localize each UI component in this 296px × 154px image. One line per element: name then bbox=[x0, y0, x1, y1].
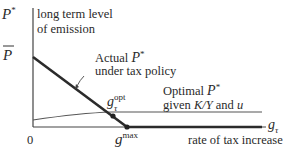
optimal-curve-label-line1: Optimal P* bbox=[163, 84, 220, 98]
y-axis-label-line2: of emission bbox=[37, 22, 95, 36]
origin-label: 0 bbox=[27, 133, 33, 147]
x-axis-symbol: gτ bbox=[268, 118, 278, 132]
actual-curve-label-line2: under tax policy bbox=[95, 64, 176, 78]
actual-curve-label-line1: Actual P* bbox=[95, 51, 145, 65]
annotation-arrow bbox=[77, 76, 84, 86]
g-max-label: gmax bbox=[115, 132, 138, 146]
optimal-curve-label-line2: given K/Y and u bbox=[163, 98, 243, 112]
p-bar-tick-label: P bbox=[3, 48, 12, 62]
y-axis-symbol: P* bbox=[2, 7, 16, 21]
g-opt-label: g opt τ bbox=[107, 95, 128, 109]
emission-tax-diagram: P* long term level of emission P Actual … bbox=[0, 0, 296, 154]
x-axis-label: rate of tax increase bbox=[188, 133, 283, 147]
g-max-point bbox=[124, 124, 129, 129]
y-axis-label-line1: long term level bbox=[37, 7, 113, 21]
optimal-p-curve bbox=[33, 112, 262, 120]
